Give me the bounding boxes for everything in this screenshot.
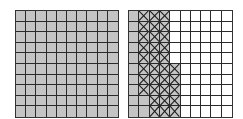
grid-cell-shaded (108, 85, 118, 96)
grid-cell-shaded (98, 32, 108, 43)
grid-cell-empty (201, 53, 211, 64)
grid-cell-empty (201, 106, 211, 117)
grid-cell-shaded (26, 11, 36, 22)
grid-cell-shaded (57, 53, 67, 64)
grid-cell-empty (222, 85, 232, 96)
grid-cell-empty (191, 11, 201, 22)
grid-cell-shaded (77, 43, 87, 54)
grid-cell-shaded (77, 32, 87, 43)
crosshatch-icon (139, 22, 148, 32)
grid-cell-shaded (36, 96, 46, 107)
crosshatch-icon (139, 43, 148, 53)
grid-cell-empty (181, 106, 191, 117)
grid-cell-crosshatched (160, 96, 170, 107)
grid-cell-shaded (26, 43, 36, 54)
grid-cell-shaded (57, 106, 67, 117)
grid-cell-shaded (67, 11, 77, 22)
grid-cell-empty (222, 53, 232, 64)
grid-cell-shaded (108, 53, 118, 64)
grid-cell-shaded (87, 64, 97, 75)
grid-cell-empty (181, 32, 191, 43)
grid-cell-shaded (129, 106, 139, 117)
crosshatch-icon (160, 85, 169, 95)
grid-cell-empty (191, 32, 201, 43)
grid-cell-shaded (36, 53, 46, 64)
crosshatch-icon (150, 22, 159, 32)
grid-cell-shaded (108, 106, 118, 117)
crosshatch-icon (139, 64, 148, 74)
crosshatch-icon (160, 64, 169, 74)
grid-cell-crosshatched (139, 22, 149, 33)
grid-cell-empty (181, 43, 191, 54)
grid-cell-shaded (77, 75, 87, 86)
grid-cell-shaded (87, 53, 97, 64)
grid-cell-shaded (47, 64, 57, 75)
grid-cell-shaded (87, 96, 97, 107)
grid-cell-shaded (98, 85, 108, 96)
grid-cell-empty (170, 53, 180, 64)
grid-cell-empty (222, 96, 232, 107)
grid-cell-shaded (77, 11, 87, 22)
grid-cell-shaded (16, 96, 26, 107)
grid-cell-empty (181, 11, 191, 22)
grid-cell-empty (211, 64, 221, 75)
grid-cell-shaded (108, 64, 118, 75)
grid-cell-crosshatched (139, 85, 149, 96)
grid-cell-shaded (26, 96, 36, 107)
grid-cell-crosshatched (170, 75, 180, 86)
grid-cell-shaded (98, 106, 108, 117)
crosshatch-icon (139, 85, 148, 95)
grid-cell-crosshatched (170, 64, 180, 75)
left-hundred-grid (15, 10, 119, 118)
grid-cell-shaded (67, 85, 77, 96)
grid-cell-crosshatched (150, 64, 160, 75)
crosshatch-icon (170, 106, 179, 117)
grid-cell-crosshatched (160, 11, 170, 22)
grid-cell-empty (191, 75, 201, 86)
grid-cell-shaded (77, 64, 87, 75)
grid-cell-shaded (108, 22, 118, 33)
grid-cell-empty (222, 22, 232, 33)
grid-cell-empty (211, 85, 221, 96)
crosshatch-icon (160, 11, 169, 21)
crosshatch-icon (170, 75, 179, 85)
grid-cell-empty (191, 22, 201, 33)
grid-cell-shaded (98, 75, 108, 86)
grid-cell-shaded (87, 75, 97, 86)
grid-cell-shaded (98, 22, 108, 33)
crosshatch-icon (160, 43, 169, 53)
grid-cell-crosshatched (160, 106, 170, 117)
grid-cell-empty (191, 64, 201, 75)
crosshatch-icon (139, 53, 148, 63)
grid-cell-empty (222, 43, 232, 54)
grid-cell-shaded (108, 43, 118, 54)
grid-cell-crosshatched (150, 32, 160, 43)
grid-cell-shaded (47, 106, 57, 117)
grid-cell-shaded (98, 43, 108, 54)
grid-cell-empty (211, 53, 221, 64)
crosshatch-icon (139, 11, 148, 21)
grid-cell-shaded (108, 96, 118, 107)
grid-cell-shaded (57, 11, 67, 22)
grid-cell-shaded (16, 85, 26, 96)
grid-cell-shaded (67, 43, 77, 54)
grid-cell-shaded (36, 85, 46, 96)
grid-cell-shaded (47, 11, 57, 22)
grid-cell-shaded (57, 85, 67, 96)
grid-cell-empty (211, 11, 221, 22)
grid-cell-shaded (108, 75, 118, 86)
grid-cell-crosshatched (139, 32, 149, 43)
crosshatch-icon (150, 43, 159, 53)
grid-cell-shaded (36, 11, 46, 22)
grid-cell-shaded (98, 96, 108, 107)
grid-cell-crosshatched (139, 64, 149, 75)
crosshatch-icon (160, 22, 169, 32)
grid-cell-empty (191, 85, 201, 96)
crosshatch-icon (160, 32, 169, 42)
grid-cell-crosshatched (150, 53, 160, 64)
grid-cell-empty (222, 11, 232, 22)
grid-cell-shaded (129, 53, 139, 64)
grid-cell-empty (191, 106, 201, 117)
grid-cell-shaded (67, 106, 77, 117)
grid-cell-shaded (26, 32, 36, 43)
